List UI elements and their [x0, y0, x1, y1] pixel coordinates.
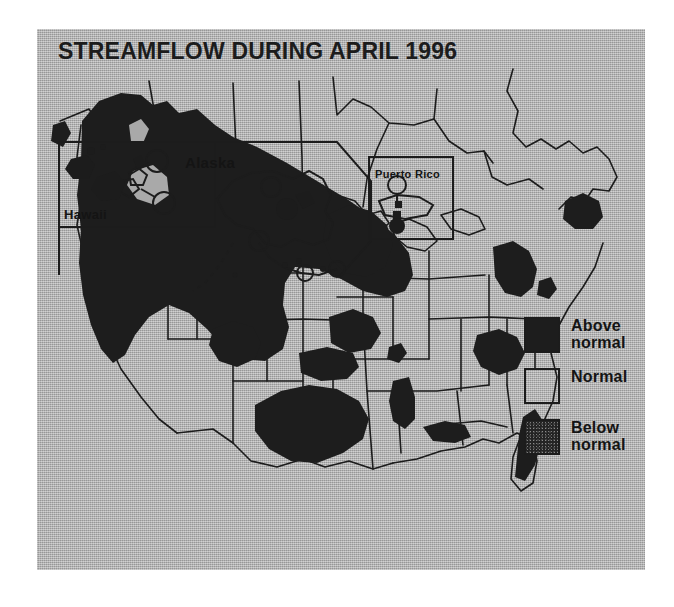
- legend-item-normal: Normal: [524, 368, 644, 404]
- inset-label-puerto-rico: Puerto Rico: [375, 168, 440, 180]
- map-panel: STREAMFLOW DURING APRIL 1996: [37, 29, 645, 570]
- streamflow-map-page: STREAMFLOW DURING APRIL 1996: [0, 0, 674, 607]
- above-normal-regions: [51, 93, 603, 481]
- legend-label-normal-line1: Normal: [571, 368, 627, 385]
- legend-label-below-normal: Below normal: [571, 419, 626, 453]
- legend-swatch-normal: [524, 368, 560, 404]
- inset-label-alaska: Alaska: [185, 154, 235, 171]
- legend-label-below-normal-line1: Below: [571, 419, 626, 436]
- legend-item-above-normal: Above normal: [524, 317, 644, 353]
- legend-label-above-normal-line2: normal: [571, 334, 626, 351]
- legend-swatch-below-normal: [524, 419, 560, 455]
- legend-item-below-normal: Below normal: [524, 419, 644, 455]
- legend: Above normal Normal Below normal: [524, 317, 644, 470]
- legend-label-above-normal: Above normal: [571, 317, 626, 351]
- us-streamflow-map: [37, 29, 645, 570]
- legend-swatch-above-normal: [524, 317, 560, 353]
- legend-label-above-normal-line1: Above: [571, 317, 626, 334]
- legend-label-below-normal-line2: normal: [571, 436, 626, 453]
- inset-label-hawaii: Hawaii: [64, 207, 107, 222]
- legend-label-normal: Normal: [571, 368, 627, 385]
